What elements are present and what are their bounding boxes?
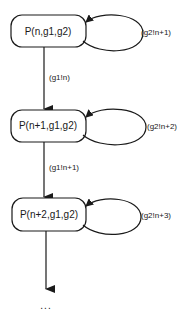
state-node-1-label: P(n+1,g1,g2) (19, 120, 77, 131)
transition-0: (g1!n) (44, 47, 70, 109)
state-node-0-label: P(n,g1,g2) (25, 26, 72, 37)
state-diagram: P(n,g1,g2) (g2!n+1) (g1!n) P(n+1,g1,g2) … (0, 0, 188, 323)
self-loop-2-label: (g2!n+3) (141, 211, 171, 220)
state-node-2: P(n+2,g1,g2) (12, 198, 86, 231)
transition-1-label: (g1!n+1) (49, 163, 79, 172)
self-loop-0: (g2!n+1) (83, 15, 171, 51)
transition-1: (g1!n+1) (44, 142, 79, 197)
continuation-ellipsis: ... (40, 300, 51, 311)
state-node-2-label: P(n+2,g1,g2) (20, 209, 78, 220)
self-loop-1-label: (g2!n+2) (147, 122, 177, 131)
self-loop-0-label: (g2!n+1) (141, 28, 171, 37)
self-loop-2: (g2!n+3) (83, 199, 171, 235)
state-node-0: P(n,g1,g2) (11, 15, 86, 47)
state-node-1: P(n+1,g1,g2) (11, 110, 86, 142)
transition-0-label: (g1!n) (49, 73, 70, 82)
self-loop-1: (g2!n+2) (83, 109, 177, 145)
